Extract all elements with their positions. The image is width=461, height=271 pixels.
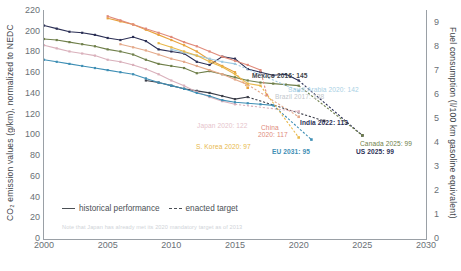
data-point [68,31,70,33]
data-point [158,73,160,75]
data-point [208,61,210,63]
y-tick-left-60: 60 [18,171,40,181]
data-point [170,58,172,60]
data-point [285,84,287,86]
annotation-label: Brazil 2017: 138 [275,93,324,100]
data-point [170,48,172,50]
chart-legend: historical performanceenacted target [62,204,238,213]
data-point [81,43,83,45]
data-point [81,32,83,34]
data-point [234,73,236,75]
y-tick-left-120: 120 [18,109,40,119]
x-axis-ticks: 2000200520102015202020252030 [0,240,461,254]
annotation-label: EU 2031: 95 [272,148,310,155]
data-point [81,52,83,54]
y-tick-right-4: 4 [434,137,439,147]
data-point [94,34,96,36]
y-tick-right-1: 1 [434,209,439,219]
y-tick-right-5: 5 [434,113,439,123]
data-point [196,55,198,57]
y-tick-left-200: 200 [18,26,40,36]
data-point [132,23,134,25]
data-point [158,81,160,83]
data-point [132,53,134,55]
data-point [44,38,45,40]
historical-line [120,44,247,84]
data-point [94,67,96,69]
data-point [132,46,134,48]
data-point [234,98,236,100]
y-tick-left-160: 160 [18,67,40,77]
data-point [183,67,185,69]
target-point [297,136,300,139]
y-tick-right-7: 7 [434,65,439,75]
data-point [247,79,249,81]
y-tick-left-80: 80 [18,150,40,160]
data-point [56,47,58,49]
data-point [158,63,160,65]
y-tick-left-140: 140 [18,88,40,98]
data-point [56,39,58,41]
y-axis-left-ticks: 020406080100120140160180200220 [18,0,40,271]
annotation-label: US 2025: 99 [356,148,394,155]
data-point [68,63,70,65]
data-point [247,64,249,66]
data-point [208,64,210,66]
chart-container: CO₂ emission values (g/km), normalized t… [0,0,461,271]
annotation-label: India 2022: 113 [300,119,348,126]
data-point [107,48,109,50]
data-point [68,50,70,52]
data-point [247,102,249,104]
data-point [221,95,223,97]
data-point [119,71,121,73]
y-tick-left-20: 20 [18,212,40,222]
data-point [272,82,274,84]
data-point [183,88,185,90]
annotation-label: Mexico 2016: 145 [252,72,307,79]
data-point [196,65,198,67]
data-point [132,64,134,66]
data-point [170,85,172,87]
y-axis-left-title: CO₂ emission values (g/km), normalized t… [2,8,18,238]
data-point [158,34,160,36]
data-point [81,65,83,67]
data-point [234,76,236,78]
data-point [107,17,109,19]
data-point [259,103,261,105]
data-point [119,39,121,41]
data-point [170,79,172,81]
x-tick-2000: 2000 [34,240,54,250]
y-tick-right-3: 3 [434,161,439,171]
data-point [158,53,160,55]
annotation-label: China [261,124,279,131]
data-point [94,55,96,57]
data-point [107,59,109,61]
data-point [44,59,45,61]
y-axis-right-ticks: 0123456789 [428,0,448,271]
data-point [56,61,58,63]
x-tick-2020: 2020 [289,240,309,250]
data-point [221,61,223,63]
data-point [196,61,198,63]
data-point [196,45,198,47]
data-point [132,36,134,38]
target-point [246,86,249,89]
data-point [208,50,210,52]
y-tick-right-2: 2 [434,185,439,195]
data-point [132,73,134,75]
data-point [183,50,185,52]
data-point [170,36,172,38]
data-point [158,48,160,50]
data-point [170,39,172,41]
data-point [170,50,172,52]
data-point [208,95,210,97]
y-tick-right-9: 9 [434,17,439,27]
data-point [145,49,147,51]
data-point [234,60,236,62]
legend-item: historical performance [62,204,160,213]
data-point [247,82,249,84]
legend-item: enacted target [169,204,238,213]
legend-swatch-dashed [169,208,182,209]
data-point [119,43,121,45]
y-axis-right-line [426,10,427,240]
